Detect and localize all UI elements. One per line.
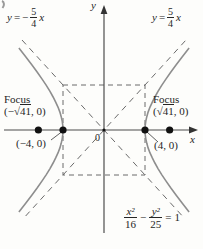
asymptote-right-label: y = 5 4 x — [152, 6, 181, 29]
equation-label: x² 16 − y² 25 = 1 — [124, 205, 180, 230]
focus-dot-right — [166, 126, 173, 133]
asymptote-left-label: y = − 5 4 x — [7, 6, 44, 29]
vertex-dot-left — [59, 126, 66, 133]
focus-dot-left — [35, 126, 42, 133]
fraction-5-4: 5 4 — [30, 6, 37, 29]
figure-canvas: y = − 5 4 x y = 5 4 x y x 0 Focus (−√41,… — [0, 0, 203, 249]
origin-dot — [102, 128, 105, 131]
fraction-x2-16: x² 16 — [124, 205, 137, 230]
asymptote-negative-line — [22, 40, 182, 216]
focus-left-coordinates: (−√41, 0) — [4, 106, 46, 118]
asymptote-positive-line — [26, 40, 186, 216]
scan-artifact — [2, 1, 4, 8]
origin-label: 0 — [95, 133, 100, 144]
fraction-y2-25: y² 25 — [149, 205, 162, 230]
vertex-left-label: (−4, 0) — [16, 138, 46, 150]
fraction-5-4: 5 4 — [167, 6, 174, 29]
focus-right-label: Focus (√41, 0) — [153, 94, 188, 117]
vertex-right-label: (4, 0) — [154, 140, 178, 152]
focus-left-label: Focus (−√41, 0) — [4, 94, 46, 117]
x-axis-label: x — [190, 134, 195, 146]
vertex-dot-right — [141, 126, 148, 133]
focus-right-coordinates: (√41, 0) — [153, 106, 188, 118]
y-axis-arrow-icon — [101, 5, 108, 14]
y-axis-label: y — [91, 0, 96, 12]
leader-line-left-vertex — [51, 132, 62, 140]
